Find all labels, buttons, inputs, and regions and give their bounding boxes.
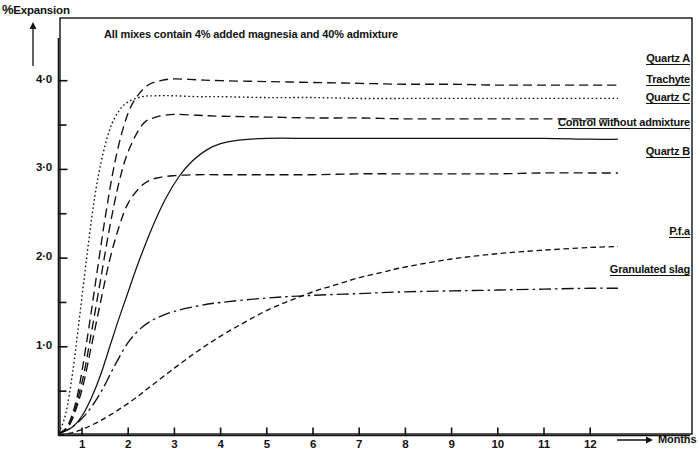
y-tick-label: 3·0	[18, 161, 52, 173]
x-axis-title: Months	[658, 433, 697, 445]
series-label-slag: Granulated slag	[610, 263, 690, 276]
x-tick-label: 11	[532, 438, 556, 450]
y-tick-label: 1·0	[18, 339, 52, 351]
x-tick-label: 1	[70, 438, 94, 450]
y-axis-title: %Expansion	[2, 2, 70, 17]
y-axis-arrow-icon	[30, 22, 37, 66]
x-tick-label: 4	[209, 438, 233, 450]
x-tick-label: 12	[578, 438, 602, 450]
axis-ticks	[59, 81, 591, 436]
series-line-trachyte	[59, 96, 618, 433]
series-line-p-f-a	[59, 247, 618, 436]
series-label-quartz-a: Quartz A	[646, 52, 690, 65]
x-tick-label: 3	[162, 438, 186, 450]
chart-annotation: All mixes contain 4% added magnesia and …	[104, 28, 398, 40]
y-tick-label: 4·0	[18, 73, 52, 85]
x-tick-label: 2	[116, 438, 140, 450]
y-axis-title-text: Expansion	[13, 4, 69, 16]
x-tick-label: 5	[255, 438, 279, 450]
x-axis-arrow-icon	[617, 437, 653, 444]
series-label-quartz-b: Quartz B	[646, 145, 690, 158]
data-curves	[59, 79, 618, 436]
series-label-trachyte: Trachyte	[646, 73, 690, 86]
y-tick-label: 2·0	[18, 250, 52, 262]
frame	[60, 18, 692, 434]
series-line-control-without-admixture	[59, 138, 618, 434]
series-line-quartz-b	[59, 173, 618, 434]
x-tick-label: 9	[440, 438, 464, 450]
chart-canvas	[0, 0, 698, 455]
series-label-quartz-c: Quartz C	[646, 91, 690, 104]
x-tick-label: 10	[486, 438, 510, 450]
axes-lines	[59, 38, 691, 436]
series-label-pfa: P.f.a	[669, 225, 690, 238]
x-tick-label: 7	[347, 438, 371, 450]
series-label-control: Control without admixture	[558, 116, 690, 129]
percent-symbol: %	[2, 2, 13, 17]
series-line-granulated-slag	[59, 288, 618, 434]
x-tick-label: 8	[393, 438, 417, 450]
series-line-quartz-a	[59, 79, 618, 434]
chart-figure: %Expansion All mixes contain 4% added ma…	[0, 0, 698, 455]
x-tick-label: 6	[301, 438, 325, 450]
series-line-quartz-c	[59, 114, 618, 433]
